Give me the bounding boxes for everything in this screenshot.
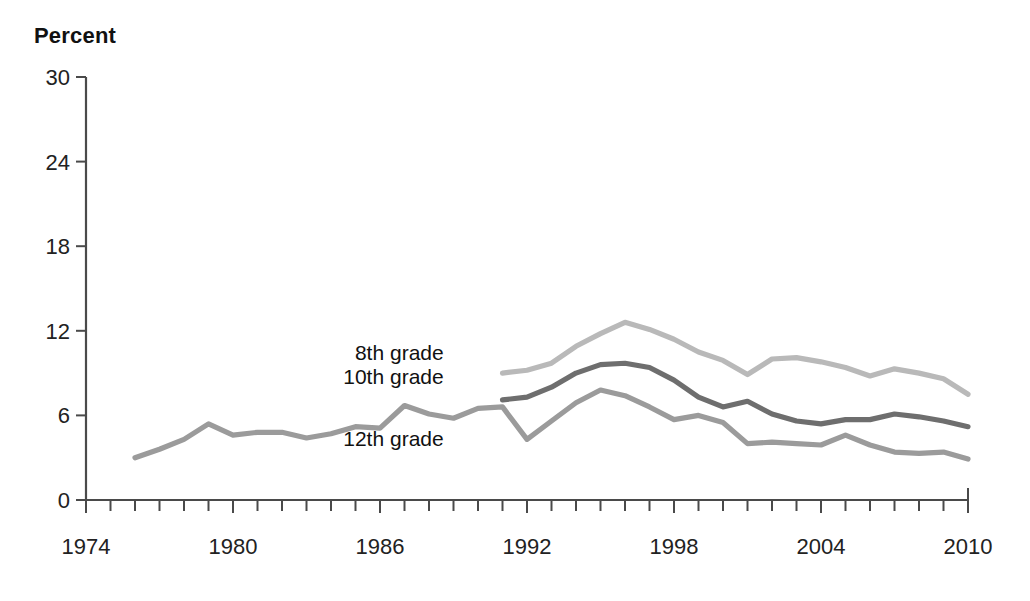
y-axis-tick-label: 30 <box>46 65 70 90</box>
y-axis-tick-label: 12 <box>46 319 70 344</box>
series-label-8th-grade: 8th grade <box>355 341 444 364</box>
x-axis-tick-label: 2004 <box>797 534 846 559</box>
line-chart-plot: 061218243019741980198619921998200420108t… <box>0 0 1030 601</box>
y-axis-tick-label: 24 <box>46 150 70 175</box>
series-line-12th-grade <box>135 390 968 459</box>
x-axis-tick-label: 1974 <box>62 534 111 559</box>
series-line-8th-grade <box>503 322 969 394</box>
y-axis-tick-label: 6 <box>58 403 70 428</box>
series-line-10th-grade <box>503 363 969 426</box>
series-label-10th-grade: 10th grade <box>343 365 443 388</box>
x-axis-tick-label: 1980 <box>209 534 258 559</box>
y-axis-tick-label: 0 <box>58 488 70 513</box>
x-axis-tick-label: 1998 <box>650 534 699 559</box>
x-axis-tick-label: 1986 <box>356 534 405 559</box>
chart-container: Percent 06121824301974198019861992199820… <box>0 0 1030 601</box>
x-axis-tick-label: 1992 <box>503 534 552 559</box>
y-axis-tick-label: 18 <box>46 234 70 259</box>
series-label-12th-grade: 12th grade <box>343 427 443 450</box>
x-axis-tick-label: 2010 <box>944 534 993 559</box>
